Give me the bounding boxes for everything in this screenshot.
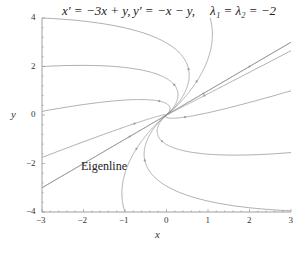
direction-marker <box>144 159 146 161</box>
trajectory <box>157 115 291 155</box>
x-tick-label: −1 <box>119 215 129 225</box>
x-tick-label: 1 <box>206 215 211 225</box>
trajectory <box>42 100 170 115</box>
direction-marker <box>203 94 205 96</box>
direction-marker <box>133 122 135 124</box>
eigenline-annotation: Eigenline <box>81 159 127 174</box>
y-tick-label: 0 <box>31 109 36 119</box>
direction-marker <box>161 140 163 142</box>
eigenline <box>42 42 291 188</box>
x-tick-label: −2 <box>78 215 88 225</box>
title-eigenvalues: λ₁ = λ₂ = −2 <box>210 3 276 19</box>
y-tick-label: 4 <box>31 12 36 22</box>
x-tick-label: 0 <box>164 215 169 225</box>
direction-marker <box>135 148 137 150</box>
direction-marker <box>187 68 189 70</box>
direction-marker <box>158 100 160 102</box>
y-tick-label: −2 <box>26 158 36 168</box>
y-tick-label: 2 <box>31 61 36 71</box>
x-axis-label: x <box>155 228 160 240</box>
trajectories <box>42 18 291 212</box>
direction-marker <box>184 116 186 118</box>
direction-marker <box>173 84 175 86</box>
x-tick-label: 3 <box>289 215 294 225</box>
title-x-equation: x′ = −3x + y, <box>62 3 131 19</box>
x-tick-label: −3 <box>36 215 46 225</box>
direction-marker <box>196 80 198 82</box>
x-tick-label: 2 <box>247 215 252 225</box>
y-axis-label: y <box>11 108 16 120</box>
trajectory <box>122 115 166 212</box>
trajectory <box>144 115 291 211</box>
direction-marker <box>248 65 250 67</box>
trajectory <box>167 18 213 115</box>
y-tick-label: −4 <box>26 206 36 216</box>
title-y-equation: y′ = −x − y, <box>133 3 195 19</box>
